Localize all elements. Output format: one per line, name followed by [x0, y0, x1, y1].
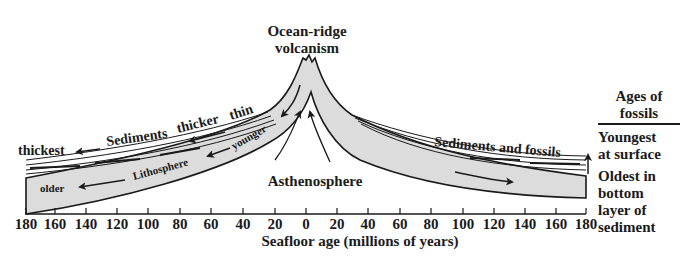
- tick-label: 20: [330, 216, 345, 232]
- label-thickest: thickest: [18, 143, 65, 158]
- tick-label: 80: [173, 216, 188, 232]
- tick-label: 180: [575, 216, 598, 232]
- heading-line2: fossils: [598, 105, 680, 122]
- tick-label: 60: [393, 216, 408, 232]
- fossil-age-panel: Ages of fossils Youngest at surface Olde…: [598, 88, 680, 241]
- tick-label: 0: [302, 216, 310, 232]
- label-asthenosphere: Asthenosphere: [268, 173, 363, 189]
- tick-label: 120: [483, 216, 506, 232]
- oldest-line4: sediment: [598, 219, 680, 236]
- seafloor-spreading-diagram: Ocean-ridge volcanism thickest Sediments…: [0, 0, 680, 258]
- tick-label: 60: [204, 216, 219, 232]
- tick-label: 160: [545, 216, 568, 232]
- label-thicker: thicker: [175, 111, 220, 136]
- tick-label: 40: [236, 216, 251, 232]
- seafloor-age-axis: 180 160 140 120 100 80 60 40 20 0 20 40 …: [15, 208, 598, 250]
- tick-label: 80: [424, 216, 439, 232]
- tick-label: 40: [361, 216, 376, 232]
- tick-label: 160: [44, 216, 67, 232]
- tick-label: 100: [452, 216, 475, 232]
- oldest-line1: Oldest in: [598, 168, 680, 185]
- tick-label: 140: [75, 216, 98, 232]
- tick-label: 120: [106, 216, 129, 232]
- title-line1: Ocean-ridge: [267, 23, 346, 39]
- oldest-line3: layer of: [598, 202, 680, 219]
- oldest-note: Oldest in bottom layer of sediment: [598, 168, 680, 236]
- label-older: older: [40, 182, 65, 194]
- axis-title: Seafloor age (millions of years): [261, 233, 458, 250]
- youngest-line1: Youngest: [598, 129, 680, 146]
- youngest-note: Youngest at surface: [598, 129, 680, 163]
- tick-label: 20: [268, 216, 283, 232]
- tick-label: 180: [15, 216, 38, 232]
- tick-label: 140: [514, 216, 537, 232]
- heading-line1: Ages of: [598, 88, 680, 105]
- youngest-line2: at surface: [598, 146, 680, 163]
- fossil-age-heading: Ages of fossils: [598, 88, 680, 125]
- oldest-line2: bottom: [598, 185, 680, 202]
- tick-label: 100: [137, 216, 160, 232]
- title-line2: volcanism: [275, 40, 340, 56]
